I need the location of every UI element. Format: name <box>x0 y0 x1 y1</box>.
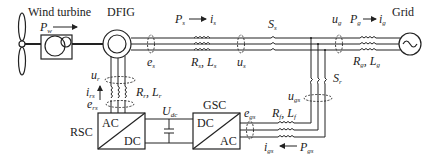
dfig-label: DFIG <box>107 5 135 19</box>
stator-inductor-icon <box>194 37 210 51</box>
pg-label: Pg <box>349 12 361 27</box>
ur-label: ur <box>91 68 100 83</box>
stator-switch-icon <box>271 36 275 52</box>
gearbox-icon <box>41 35 72 59</box>
rsc-ac-label: AC <box>102 116 119 130</box>
us-label: us <box>237 55 246 70</box>
rsc-dc-label: DC <box>124 134 141 148</box>
rf-lf-label: Rf, Lf <box>271 106 297 121</box>
filter-inductor-icon <box>278 120 294 138</box>
sr-label: Sr <box>333 71 342 86</box>
dfig-system-diagram: Wind turbine DFIG Grid Pw Ps is es Rs, L… <box>0 0 428 163</box>
rg-lg-label: Rg, Lg <box>352 54 381 69</box>
rs-ls-label: Rs, Ls <box>190 55 217 70</box>
wind-turbine-label: Wind turbine <box>28 5 91 19</box>
grid-source-icon <box>399 33 421 55</box>
ug-label: ug <box>332 12 342 27</box>
pw-label: Pw <box>39 20 52 35</box>
ss-label: Ss <box>268 17 277 32</box>
wind-turbine-blades-icon <box>19 13 26 75</box>
dc-link <box>145 119 193 143</box>
grid-inductor-icon <box>360 35 376 52</box>
rotor-lines <box>111 56 125 113</box>
rsc-label: RSC <box>70 125 93 139</box>
egs-label: egs <box>244 106 256 121</box>
rotor-switch-icon <box>309 78 327 84</box>
gsc-ac-label: AC <box>220 134 237 148</box>
rotor-inductor-icon <box>109 86 128 100</box>
ps-label: Ps <box>174 12 185 27</box>
rr-lr-label: Rr, Lr <box>135 85 162 100</box>
gsc-dc-label: DC <box>197 116 214 130</box>
stator-lines <box>131 38 400 50</box>
pgs-label: Pgs <box>299 140 314 155</box>
grid-label: Grid <box>392 5 414 19</box>
udc-label: Udc <box>162 104 178 119</box>
ugs-label: ugs <box>288 89 301 104</box>
igs-label: igs <box>264 140 274 155</box>
dfig-generator-icon <box>103 30 131 58</box>
is-label: is <box>210 12 216 27</box>
gsc-label: GSC <box>203 98 226 112</box>
es-label: es <box>147 55 155 70</box>
ig-label: ig <box>379 12 386 27</box>
circuit-canvas: Wind turbine DFIG Grid Pw Ps is es Rs, L… <box>0 0 428 163</box>
